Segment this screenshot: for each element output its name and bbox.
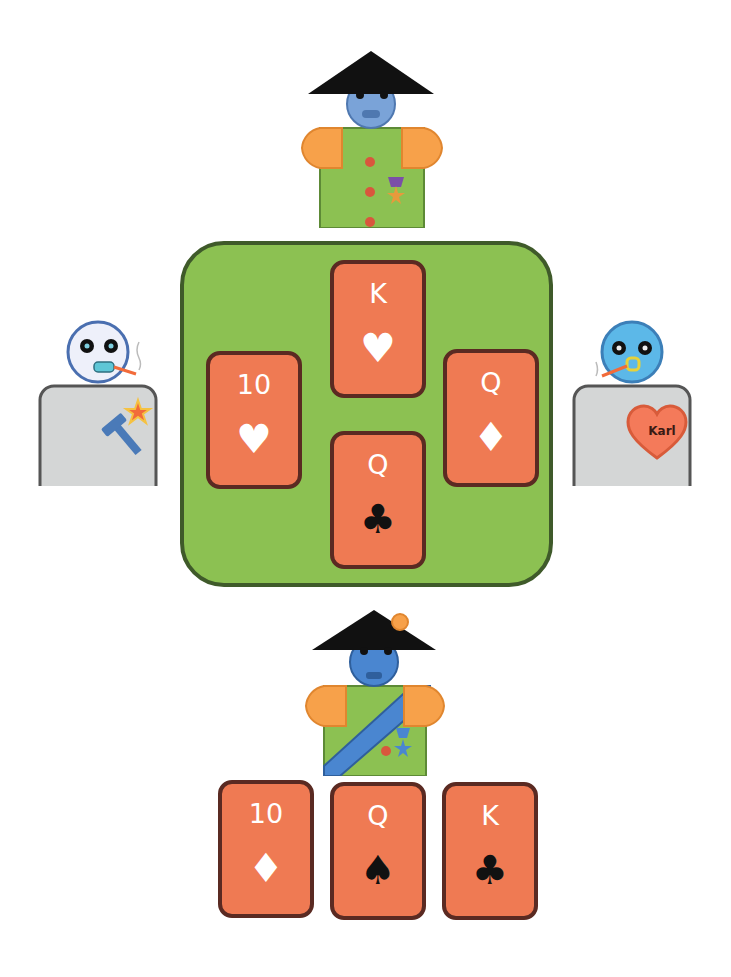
- card-rank: K: [334, 278, 422, 309]
- club-icon: ♣: [334, 499, 422, 539]
- player-left: [38, 318, 160, 486]
- player-right: [572, 318, 694, 486]
- card-rank: Q: [334, 449, 422, 480]
- general-avatar-icon: [304, 606, 454, 776]
- karl-avatar-icon: [572, 318, 694, 486]
- player-top: [298, 48, 448, 228]
- card-rank: K: [446, 800, 534, 831]
- diamond-icon: ♦: [447, 417, 535, 457]
- hand-card-3[interactable]: K ♣: [442, 782, 538, 920]
- spade-icon: ♠: [334, 850, 422, 890]
- trick-card-right[interactable]: Q ♦: [443, 349, 539, 487]
- trick-card-bottom[interactable]: Q ♣: [330, 431, 426, 569]
- diamond-icon: ♦: [222, 848, 310, 888]
- trick-card-top[interactable]: K ♥: [330, 260, 426, 398]
- card-rank: Q: [334, 800, 422, 831]
- card-rank: 10: [222, 798, 310, 829]
- hand-card-2[interactable]: Q ♠: [330, 782, 426, 920]
- card-rank: 10: [210, 369, 298, 400]
- heart-icon: ♥: [334, 328, 422, 368]
- soldier-avatar-icon: [298, 48, 448, 228]
- player-bottom: [304, 606, 454, 776]
- card-rank: Q: [447, 367, 535, 398]
- heart-icon: ♥: [210, 419, 298, 459]
- club-icon: ♣: [446, 850, 534, 890]
- player-right-name: Karl: [642, 424, 682, 438]
- worker-avatar-icon: [38, 318, 160, 486]
- trick-card-left[interactable]: 10 ♥: [206, 351, 302, 489]
- hand-card-1[interactable]: 10 ♦: [218, 780, 314, 918]
